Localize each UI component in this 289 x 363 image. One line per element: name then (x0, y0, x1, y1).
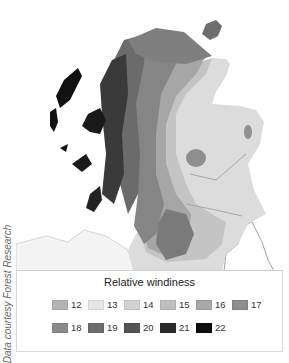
legend-swatch (124, 300, 140, 310)
legend-swatch (88, 300, 104, 310)
legend-swatch (124, 323, 140, 333)
credit-text: Data courtesy Forest Research (2, 225, 13, 363)
legend-row-2: 18 19 20 21 22 (52, 322, 232, 333)
legend-label: 14 (143, 299, 154, 310)
legend-item-16: 16 (196, 299, 232, 310)
legend-item-19: 19 (88, 322, 124, 333)
legend-label: 12 (71, 299, 82, 310)
grampian-patch (186, 149, 206, 167)
legend-item-13: 13 (88, 299, 124, 310)
legend-swatch (196, 300, 212, 310)
legend-swatch (88, 323, 104, 333)
windiness-map (16, 4, 283, 271)
legend-label: 21 (179, 322, 190, 333)
legend-item-17: 17 (232, 299, 268, 310)
legend-label: 15 (179, 299, 190, 310)
legend-swatch (52, 300, 68, 310)
legend-swatch (160, 323, 176, 333)
legend-label: 18 (71, 322, 82, 333)
legend-label: 17 (251, 299, 262, 310)
legend-item-20: 20 (124, 322, 160, 333)
legend-swatch (52, 323, 68, 333)
legend-item-15: 15 (160, 299, 196, 310)
buchan-patch (244, 125, 252, 139)
legend-item-14: 14 (124, 299, 160, 310)
data-credit: Data courtesy Forest Research (0, 232, 14, 356)
legend-label: 22 (215, 322, 226, 333)
legend-label: 13 (107, 299, 118, 310)
legend-row-1: 12 13 14 15 16 17 (52, 299, 268, 310)
legend-swatch (232, 300, 248, 310)
legend-item-22: 22 (196, 322, 232, 333)
legend-title: Relative windiness (16, 276, 283, 288)
legend-swatch (196, 323, 212, 333)
legend-item-21: 21 (160, 322, 196, 333)
legend-item-18: 18 (52, 322, 88, 333)
map-legend-divider (16, 270, 283, 271)
legend-label: 16 (215, 299, 226, 310)
legend-label: 19 (107, 322, 118, 333)
legend-swatch (160, 300, 176, 310)
legend-item-12: 12 (52, 299, 88, 310)
legend-label: 20 (143, 322, 154, 333)
